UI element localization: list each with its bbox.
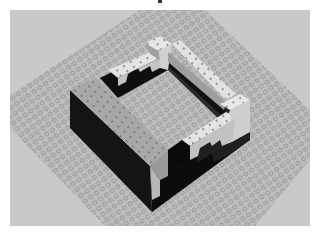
render-svg [0,0,324,234]
render-scene: LEGO brick enclosure on baseplate [0,0,324,234]
